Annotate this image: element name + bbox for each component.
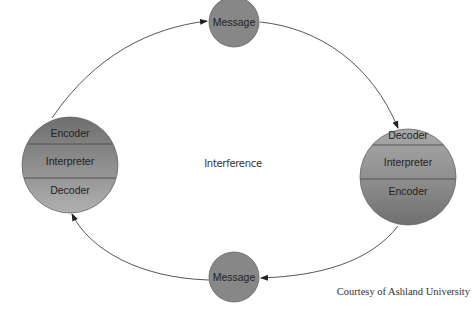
image-credit: Courtesy of Ashland University: [337, 286, 471, 297]
bottom-message-label: Message: [213, 271, 256, 283]
right-decoder-label: Decoder: [388, 129, 428, 141]
right-interpreter-label: Interpreter: [384, 156, 433, 168]
right-communicator-node: Decoder Interpreter Encoder: [358, 129, 458, 225]
communication-diagram: Encoder Interpreter Decoder Decoder Inte…: [0, 0, 476, 323]
arrow-bottom-to-left: [72, 214, 209, 280]
arrow-top-to-right: [260, 22, 398, 128]
left-decoder-label: Decoder: [50, 184, 90, 196]
right-encoder-label: Encoder: [388, 185, 428, 197]
arrow-right-to-bottom: [261, 226, 398, 278]
left-communicator-node: Encoder Interpreter Decoder: [20, 117, 120, 213]
arrow-left-to-top: [52, 21, 207, 118]
interference-label: Interference: [204, 158, 262, 169]
top-message-label: Message: [213, 16, 256, 28]
top-message-node: Message: [209, 0, 259, 47]
left-interpreter-label: Interpreter: [46, 155, 95, 167]
bottom-message-node: Message: [209, 252, 259, 302]
left-encoder-label: Encoder: [50, 127, 90, 139]
